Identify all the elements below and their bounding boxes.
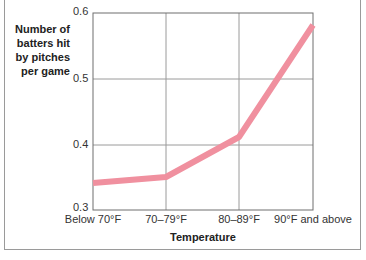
x-axis-label: Temperature [153, 231, 253, 243]
x-tick-90-above: 90°F and above [263, 213, 363, 225]
data-line [93, 25, 313, 183]
